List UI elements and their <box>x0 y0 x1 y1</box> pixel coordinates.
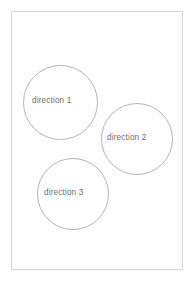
circle-label-direction-2: direction 2 <box>107 134 146 142</box>
diagram-canvas: direction 1 direction 2 direction 3 <box>0 0 194 282</box>
slide-frame: direction 1 direction 2 direction 3 <box>11 11 183 270</box>
circle-label-direction-1: direction 1 <box>32 97 71 105</box>
circle-label-direction-3: direction 3 <box>44 189 83 197</box>
